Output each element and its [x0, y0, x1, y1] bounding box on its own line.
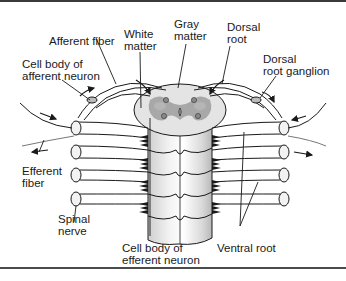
label-spinal-nerve: Spinal nerve	[58, 213, 90, 237]
label-efferent-fiber: Efferent fiber	[22, 165, 62, 189]
label-dorsal-root: Dorsal root	[227, 21, 260, 45]
left-arrows	[32, 80, 150, 152]
label-afferent-fiber: Afferent fiber	[49, 35, 115, 47]
label-cell-body-efferent: Cell body of efferent neuron	[122, 242, 200, 266]
right-arrows	[210, 80, 312, 155]
label-ventral-root: Ventral root	[217, 242, 276, 254]
label-cell-body-afferent: Cell body of afferent neuron	[22, 58, 100, 82]
label-white-matter: White matter	[124, 28, 157, 52]
label-gray-matter: Gray matter	[174, 18, 207, 42]
label-dorsal-root-ganglion: Dorsal root ganglion	[263, 53, 330, 77]
